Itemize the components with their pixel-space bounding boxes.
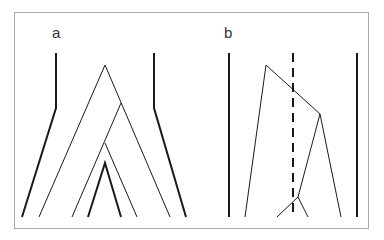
panel-a-label: a [52,24,60,41]
panel-b-label: b [224,24,232,41]
figure-border [15,13,369,229]
